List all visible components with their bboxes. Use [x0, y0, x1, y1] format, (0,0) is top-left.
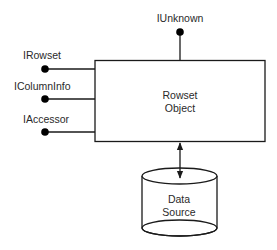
- interface-iunknown-label: IUnknown: [157, 12, 204, 24]
- data-source-label-line1: Data: [168, 193, 190, 205]
- rowset-object-label-line2: Object: [165, 102, 195, 114]
- rowset-diagram: Rowset Object IUnknown IRowset IColumnIn…: [0, 0, 277, 250]
- interface-irowset: IRowset: [23, 49, 95, 73]
- lollipop-connector-icon: [176, 28, 184, 36]
- rowset-object-box: Rowset Object: [95, 61, 265, 142]
- interface-icolumninfo-label: IColumnInfo: [14, 80, 71, 92]
- interface-irowset-label: IRowset: [23, 49, 61, 61]
- lollipop-connector-icon: [41, 65, 49, 73]
- rowset-object-label-line1: Rowset: [162, 89, 197, 101]
- interface-iunknown: IUnknown: [157, 12, 204, 61]
- interface-icolumninfo: IColumnInfo: [14, 80, 95, 103]
- interface-iaccessor: IAccessor: [23, 113, 95, 136]
- lollipop-connector-icon: [41, 128, 49, 136]
- data-source-label-line2: Source: [162, 206, 195, 218]
- data-source-cylinder: Data Source: [142, 168, 217, 236]
- lollipop-connector-icon: [41, 95, 49, 103]
- interface-iaccessor-label: IAccessor: [23, 113, 70, 125]
